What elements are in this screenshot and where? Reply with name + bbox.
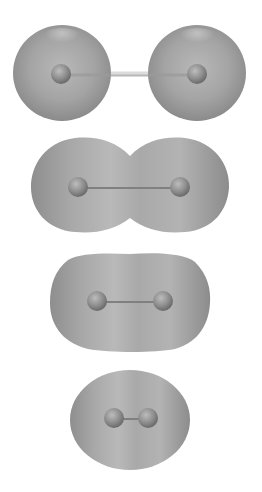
stage-bonded-molecule [70, 370, 190, 470]
nucleus-left [104, 408, 124, 428]
nucleus-left [68, 177, 88, 197]
nucleus-right [153, 291, 173, 311]
nucleus-right [138, 408, 158, 428]
cloud-highlight-left [40, 28, 84, 52]
stage-overlapping-clouds [31, 138, 229, 233]
electron-cloud-peanut [31, 138, 229, 233]
stage-merged-cloud [50, 253, 210, 352]
nucleus-right [187, 64, 207, 84]
cloud-highlight-right [175, 28, 219, 52]
nucleus-left [51, 64, 71, 84]
h2-bond-formation-diagram [0, 0, 262, 492]
nucleus-right [170, 177, 190, 197]
nucleus-left [87, 291, 107, 311]
stage-separated-atoms [13, 25, 246, 121]
